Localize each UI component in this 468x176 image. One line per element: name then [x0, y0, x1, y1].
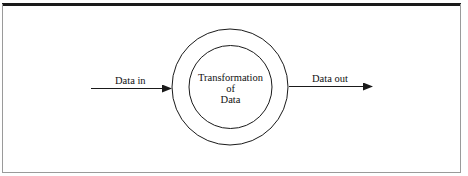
process-label: Transformation of Data — [190, 72, 271, 105]
process-label-line-2: of — [190, 83, 271, 94]
data-out-label: Data out — [312, 74, 348, 85]
process-label-line-1: Transformation — [190, 72, 271, 83]
data-in-label: Data in — [115, 76, 146, 87]
process-label-line-3: Data — [190, 94, 271, 105]
